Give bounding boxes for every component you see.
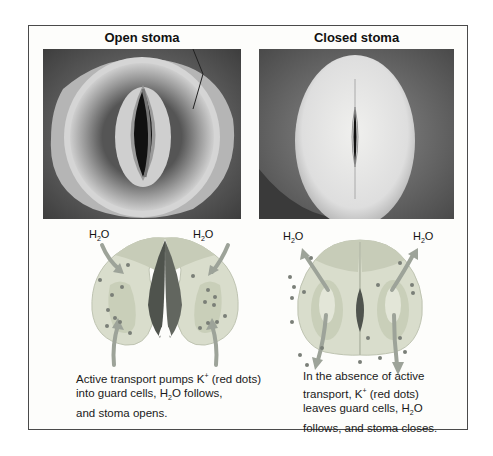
closed-stoma-caption: In the absence of active transport, K+ (… — [303, 369, 473, 435]
open-stoma-diagram: H2O H2O — [80, 230, 250, 370]
closed-stoma-title: Closed stoma — [259, 30, 454, 45]
h2o-label-left: H2O — [283, 230, 303, 244]
h2o-label-right: H2O — [413, 230, 433, 244]
closed-stoma-diagram: H2O H2O — [280, 230, 450, 380]
h2o-label-right: H2O — [193, 228, 213, 242]
h2o-label-left: H2O — [89, 228, 109, 242]
open-stoma-caption: Active transport pumps K+ (red dots) int… — [76, 369, 286, 421]
open-stoma-micrograph — [43, 49, 241, 219]
open-stoma-title: Open stoma — [43, 30, 241, 45]
closed-stoma-micrograph — [259, 49, 454, 219]
